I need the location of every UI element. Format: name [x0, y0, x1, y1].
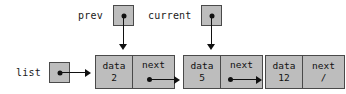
- node-next-cell: next: [133, 56, 174, 88]
- node-next-arrow-shaft: [149, 79, 176, 81]
- node-next-arrow-shaft: [230, 79, 258, 81]
- node-data-cell: data 12: [266, 56, 303, 88]
- list-node: data 5 next: [183, 55, 263, 89]
- prev-pointer-arrow-shaft: [123, 16, 125, 46]
- node-data-label: data: [103, 60, 126, 72]
- node-next-arrow-head: [256, 76, 262, 84]
- node-next-arrow-head: [174, 76, 180, 84]
- list-head-arrow-head: [85, 69, 91, 77]
- node-data-label: data: [273, 60, 296, 72]
- linked-list-diagram: prev current list data 2 next data 5: [0, 0, 346, 94]
- current-pointer-label: current: [148, 11, 192, 21]
- node-data-cell: data 2: [96, 56, 133, 88]
- node-next-label: next: [133, 59, 174, 71]
- node-next-cell: next /: [303, 56, 344, 88]
- node-next-label: next: [221, 59, 262, 71]
- current-pointer-arrow-shaft: [211, 16, 213, 46]
- prev-pointer-arrow-head: [119, 44, 127, 50]
- list-head-arrow-shaft: [61, 72, 87, 74]
- prev-pointer-label: prev: [78, 11, 103, 21]
- node-data-value: 5: [199, 72, 205, 84]
- list-head-label: list: [16, 68, 41, 78]
- node-data-value: 12: [278, 72, 289, 84]
- node-data-cell: data 5: [184, 56, 221, 88]
- node-next-label: next: [312, 60, 335, 72]
- node-data-label: data: [191, 60, 214, 72]
- node-next-null-symbol: /: [321, 72, 327, 84]
- list-node: data 2 next: [95, 55, 175, 89]
- list-node: data 12 next /: [265, 55, 345, 89]
- node-data-value: 2: [111, 72, 117, 84]
- current-pointer-arrow-head: [207, 44, 215, 50]
